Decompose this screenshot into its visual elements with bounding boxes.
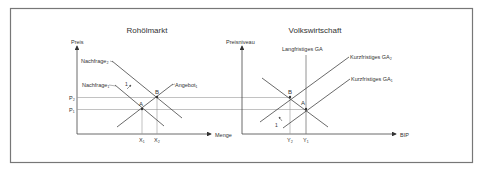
supply-label: Angebot₁ xyxy=(175,82,197,88)
sras2-label: Kurzfristiges GA₂ xyxy=(350,54,392,60)
y2-label: Y₂ xyxy=(287,137,293,143)
x2-label: X₂ xyxy=(154,137,160,143)
right-point-b-marker xyxy=(289,96,291,98)
supply-curve xyxy=(117,84,173,127)
left-point-a-marker xyxy=(141,108,143,110)
left-shift-label: 1 xyxy=(125,81,128,87)
left-y-axis-label: Preis xyxy=(71,39,84,45)
sras-shift-arrow-icon xyxy=(279,117,282,121)
right-chart: Volkswirtschaft Preisniveau BIP Langfris… xyxy=(226,26,409,143)
right-point-a-label: A xyxy=(301,100,305,106)
left-point-a-label: A xyxy=(139,101,143,107)
p1-label: P₁ xyxy=(69,107,75,113)
right-y-axis-label: Preisniveau xyxy=(226,39,255,45)
right-chart-title: Volkswirtschaft xyxy=(289,26,343,35)
demand2-label: Nachfrage₂ xyxy=(81,58,109,64)
left-chart-title: Rohölmarkt xyxy=(127,26,169,35)
right-shift-label: 1 xyxy=(275,122,278,128)
right-point-b-label: B xyxy=(288,89,292,95)
diagram-border xyxy=(11,9,473,163)
right-point-a-marker xyxy=(305,108,307,110)
x1-label: X₁ xyxy=(139,137,145,143)
left-x-axis-label: Menge xyxy=(215,132,232,138)
sras1-label: Kurzfristiges GA₁ xyxy=(351,76,393,82)
right-x-axis-label: BIP xyxy=(400,132,409,138)
left-point-b-marker xyxy=(156,96,158,98)
y1-label: Y₁ xyxy=(303,137,309,143)
diagram-canvas: Rohölmarkt Preis Menge P₂ P₁ X₁ X₂ Nachf… xyxy=(0,0,485,170)
sras1-curve xyxy=(283,79,350,128)
left-point-b-label: B xyxy=(155,89,159,95)
lras-label: Langfristiges GA xyxy=(282,46,323,52)
demand1-label: Nachfrage₁ xyxy=(82,82,109,88)
p2-label: P₂ xyxy=(69,95,75,101)
